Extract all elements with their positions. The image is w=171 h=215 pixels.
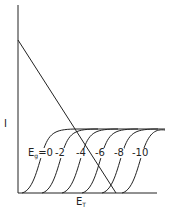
x-axis-label: ET xyxy=(76,197,86,207)
load-line xyxy=(18,40,116,193)
curve-label-6: -6 xyxy=(95,148,105,158)
eg-first: =0 xyxy=(38,147,53,158)
curve-label-2: -2 xyxy=(55,148,65,158)
curve-label-10: -10 xyxy=(132,148,148,158)
curve-eg-2 xyxy=(42,129,98,193)
curve-eg-0 xyxy=(22,129,165,193)
curve-label-eg0: Eg=0 xyxy=(28,148,53,158)
curve-label-8: -8 xyxy=(114,148,124,158)
eg-sub: g xyxy=(34,152,38,159)
chart-plot xyxy=(0,0,171,215)
y-axis-label: I xyxy=(4,119,7,129)
curve-label-4: -4 xyxy=(76,148,86,158)
x-label-sub: T xyxy=(82,201,86,208)
